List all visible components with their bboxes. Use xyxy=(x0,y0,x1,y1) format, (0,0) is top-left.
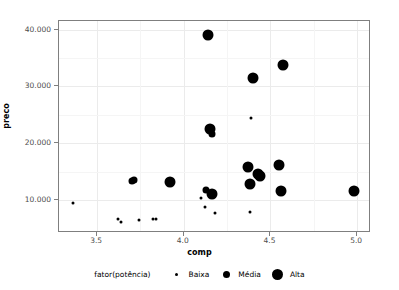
gridline-vertical-minor xyxy=(314,21,315,231)
data-point xyxy=(244,179,255,190)
data-point xyxy=(214,211,217,214)
data-point xyxy=(164,177,175,188)
data-point xyxy=(137,218,140,221)
gridline-horizontal xyxy=(59,143,369,144)
gridline-horizontal xyxy=(59,30,369,31)
y-axis-tick xyxy=(54,199,58,200)
legend-point-icon xyxy=(175,273,178,276)
data-point xyxy=(203,205,206,208)
legend-point-icon xyxy=(223,271,230,278)
x-axis-tick-label: 3.5 xyxy=(90,236,102,245)
legend-glyph-box xyxy=(169,266,185,282)
data-point xyxy=(155,218,158,221)
data-point xyxy=(130,177,137,184)
x-axis-tick-label: 5.0 xyxy=(350,236,362,245)
gridline-horizontal xyxy=(59,86,369,87)
legend-key-baixa: Baixa xyxy=(169,266,210,282)
data-point xyxy=(348,185,359,196)
x-axis-title: comp xyxy=(0,248,399,257)
size-legend: fator(potência) BaixaMédiaAlta xyxy=(0,266,399,282)
gridline-horizontal-minor xyxy=(59,115,369,116)
legend-glyph-box xyxy=(270,266,286,282)
gridline-vertical-minor xyxy=(140,21,141,231)
x-axis-tick-label: 4.0 xyxy=(177,236,189,245)
data-point xyxy=(71,201,74,204)
y-axis-tick xyxy=(54,142,58,143)
y-axis-tick xyxy=(54,85,58,86)
data-point xyxy=(208,130,215,137)
data-point xyxy=(275,185,286,196)
plot-panel xyxy=(58,20,370,232)
gridline-horizontal-minor xyxy=(59,58,369,59)
data-point xyxy=(248,210,251,213)
legend-glyph-box xyxy=(218,266,234,282)
legend-label: Média xyxy=(238,270,261,279)
y-axis-tick xyxy=(54,29,58,30)
data-point xyxy=(116,218,119,221)
scatter-plot: 10.00020.00030.00040.0003.54.04.55.0 pre… xyxy=(0,0,399,290)
gridline-vertical-minor xyxy=(227,21,228,231)
legend-title: fator(potência) xyxy=(94,270,150,279)
data-point xyxy=(200,196,203,199)
legend-key-média: Média xyxy=(218,266,261,282)
gridline-horizontal xyxy=(59,200,369,201)
data-point xyxy=(203,30,214,41)
data-point xyxy=(274,159,285,170)
legend-point-icon xyxy=(272,269,283,280)
y-axis-tick-label: 40.000 xyxy=(25,24,51,33)
data-point xyxy=(242,162,253,173)
gridline-horizontal-minor xyxy=(59,172,369,173)
legend-label: Alta xyxy=(290,270,305,279)
y-axis-tick-label: 20.000 xyxy=(25,138,51,147)
data-point xyxy=(248,72,259,83)
data-point xyxy=(255,171,266,182)
data-point xyxy=(120,221,123,224)
y-axis-tick-label: 10.000 xyxy=(25,195,51,204)
data-point xyxy=(250,116,253,119)
y-axis-title: preco xyxy=(2,103,11,128)
legend-keys: BaixaMédiaAlta xyxy=(169,266,305,282)
data-point xyxy=(206,189,217,200)
data-point xyxy=(277,60,288,71)
y-axis-tick-label: 30.000 xyxy=(25,81,51,90)
legend-key-alta: Alta xyxy=(270,266,305,282)
legend-label: Baixa xyxy=(189,270,210,279)
x-axis-tick-label: 4.5 xyxy=(263,236,275,245)
